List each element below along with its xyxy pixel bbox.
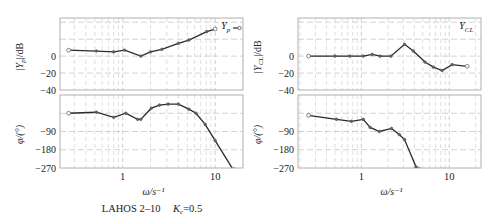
y-tick-label: −20	[278, 68, 294, 79]
x-tick-label: 10	[210, 171, 221, 182]
data-point	[124, 112, 127, 115]
right-phase-plot: −90−180−270φ/(°)110ω/s⁻¹	[252, 95, 481, 197]
y-axis-label: |YCL|/dB	[252, 40, 265, 74]
data-point	[424, 61, 427, 64]
data-point	[349, 55, 352, 58]
data-point	[67, 48, 71, 52]
data-point	[390, 55, 393, 58]
bode-figure: 0−20−40|Yp|/dBYp−90−180−270φ/(°)110ω/s⁻¹…	[0, 0, 498, 222]
y-tick-label: 0	[289, 51, 294, 62]
data-series	[307, 113, 421, 171]
x-tick-label: 10	[444, 171, 455, 182]
data-point	[95, 111, 98, 114]
y-axis-label: φ/(°)	[252, 124, 264, 144]
data-point	[417, 167, 421, 171]
data-point	[451, 63, 454, 66]
plot-frame	[298, 18, 481, 90]
data-point	[465, 64, 469, 68]
data-point	[362, 118, 365, 121]
y-tick-label: 0	[51, 51, 56, 62]
y-axis-label: |Yp|/dB	[14, 43, 27, 72]
data-point	[112, 116, 115, 119]
x-tick-label: 1	[359, 171, 364, 182]
data-point	[362, 55, 365, 58]
data-point	[123, 49, 126, 52]
data-point	[167, 103, 170, 106]
data-point	[307, 54, 311, 58]
y-tick-label: −180	[273, 144, 294, 155]
data-point	[335, 118, 338, 121]
caption-gain-value: =0.5	[183, 203, 202, 214]
y-tick-label: −40	[278, 85, 294, 96]
data-point	[378, 130, 381, 133]
y-tick-label: −180	[35, 144, 56, 155]
data-point	[204, 123, 207, 126]
data-point	[149, 51, 152, 54]
left-phase-plot: −90−180−270φ/(°)110ω/s⁻¹	[14, 95, 243, 197]
data-point	[441, 69, 444, 72]
data-point	[307, 113, 311, 117]
data-point	[214, 139, 217, 142]
y-tick-label: −90	[278, 126, 294, 137]
x-axis-label: ω/s⁻¹	[380, 186, 402, 197]
x-tick-label: 1	[120, 171, 125, 182]
x-axis-label: ω/s⁻¹	[142, 186, 164, 197]
data-point	[403, 43, 406, 46]
y-axis-label: φ/(°)	[14, 124, 26, 144]
data-point	[398, 133, 401, 136]
data-point	[188, 39, 191, 42]
y-tick-label: −40	[40, 85, 56, 96]
data-point	[432, 66, 435, 69]
data-point	[350, 120, 353, 123]
data-point	[139, 118, 142, 121]
data-point	[150, 107, 153, 110]
data-point	[195, 112, 198, 115]
data-point	[334, 55, 337, 58]
data-point	[158, 104, 161, 107]
y-tick-label: −270	[273, 163, 294, 174]
data-point	[213, 27, 217, 31]
bode-panels: 0−20−40|Yp|/dBYp−90−180−270φ/(°)110ω/s⁻¹…	[14, 18, 481, 197]
data-point	[136, 118, 139, 121]
data-point	[371, 53, 374, 56]
data-point	[67, 111, 71, 115]
left-magnitude-plot: 0−20−40|Yp|/dBYp	[14, 18, 243, 96]
legend-label: Yp	[221, 20, 231, 34]
y-tick-label: −20	[40, 68, 56, 79]
data-point	[403, 138, 406, 141]
data-point	[369, 126, 372, 129]
data-point	[95, 50, 98, 53]
data-point	[188, 108, 191, 111]
caption-main: LAHOS 2–10	[102, 203, 161, 214]
data-point	[177, 42, 180, 45]
data-line	[308, 115, 418, 169]
data-point	[412, 50, 415, 53]
data-point	[177, 103, 180, 106]
y-tick-label: −90	[40, 126, 56, 137]
figure-caption: LAHOS 2–10 Kc=0.5	[102, 203, 202, 216]
data-point	[161, 48, 164, 51]
y-tick-label: −270	[35, 163, 56, 174]
right-magnitude-plot: 0−20−40|YCL|/dBYCL	[252, 18, 481, 96]
data-point	[231, 167, 235, 171]
data-line	[69, 29, 216, 56]
data-point	[379, 55, 382, 58]
data-point	[112, 51, 115, 54]
data-point	[139, 55, 142, 58]
data-point	[390, 127, 393, 130]
legend-marker	[238, 26, 241, 29]
data-point	[205, 30, 208, 33]
